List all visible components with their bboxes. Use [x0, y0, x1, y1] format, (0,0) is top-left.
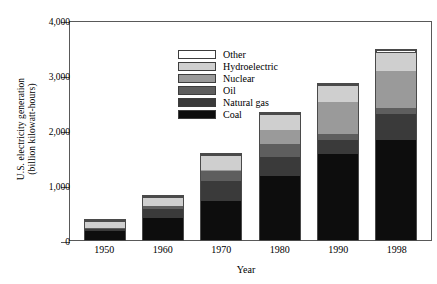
x-axis-tick-label-1970: 1970 — [201, 244, 241, 260]
legend-label-nuclear: Nuclear — [223, 74, 255, 84]
legend-label-oil: Oil — [223, 86, 236, 96]
bar-1980[interactable] — [260, 113, 300, 240]
bar-segment-coal-1960[interactable] — [143, 218, 183, 240]
bar-segment-nuclear-1980[interactable] — [260, 130, 300, 144]
legend-swatch-coal — [178, 110, 216, 119]
legend-item-gas[interactable]: Natural gas — [178, 97, 278, 108]
y-axis-tick-label: 2,000 — [49, 127, 70, 137]
stacked-bar-chart-figure: U.S. electricity generation (billion kil… — [0, 0, 437, 284]
bar-segment-hydro-1990[interactable] — [318, 86, 358, 102]
bar-segment-hydro-1998[interactable] — [376, 53, 416, 71]
legend-item-coal[interactable]: Coal — [178, 109, 278, 120]
legend-item-hydro[interactable]: Hydroelectric — [178, 61, 278, 72]
y-axis-tick-label: 4,000 — [49, 17, 70, 27]
bar-segment-coal-1950[interactable] — [85, 231, 125, 240]
legend-label-gas: Natural gas — [223, 98, 269, 108]
legend-label-coal: Coal — [223, 110, 242, 120]
bar-segment-coal-1990[interactable] — [318, 154, 358, 240]
bar-1990[interactable] — [318, 84, 358, 240]
legend-swatch-other — [178, 50, 216, 59]
legend-label-other: Other — [223, 50, 246, 60]
bar-segment-coal-1998[interactable] — [376, 140, 416, 240]
x-axis-tick-label-1998: 1998 — [377, 244, 417, 260]
y-axis-tick-label: 1,000 — [49, 182, 70, 192]
legend-swatch-hydro — [178, 62, 216, 71]
bar-segment-gas-1970[interactable] — [201, 181, 241, 201]
bar-segment-hydro-1970[interactable] — [201, 156, 241, 170]
legend-item-nuclear[interactable]: Nuclear — [178, 73, 278, 84]
bar-segment-oil-1970[interactable] — [201, 171, 241, 181]
bar-segment-hydro-1960[interactable] — [143, 198, 183, 206]
bar-segment-gas-1960[interactable] — [143, 209, 183, 218]
legend-swatch-oil — [178, 86, 216, 95]
y-axis-title-line-2: (billion kilowatt-hours) — [27, 34, 38, 224]
legend-item-oil[interactable]: Oil — [178, 85, 278, 96]
legend-swatch-gas — [178, 98, 216, 107]
bar-1970[interactable] — [201, 154, 241, 240]
bar-segment-nuclear-1998[interactable] — [376, 71, 416, 108]
x-axis-title: Year — [60, 264, 432, 275]
y-axis-title: U.S. electricity generation (billion kil… — [16, 34, 38, 224]
bar-1960[interactable] — [143, 196, 183, 240]
y-axis-tick-label: 3,000 — [49, 72, 70, 82]
bar-segment-gas-1990[interactable] — [318, 140, 358, 154]
bar-segment-gas-1980[interactable] — [260, 157, 300, 176]
bar-segment-coal-1970[interactable] — [201, 201, 241, 240]
bar-segment-nuclear-1990[interactable] — [318, 102, 358, 134]
y-axis-title-line-1: U.S. electricity generation — [16, 34, 27, 224]
x-axis-tick-label-1950: 1950 — [84, 244, 124, 260]
legend-label-hydro: Hydroelectric — [223, 62, 278, 72]
bar-segment-gas-1998[interactable] — [376, 114, 416, 140]
bar-1998[interactable] — [376, 50, 416, 240]
bar-segment-oil-1980[interactable] — [260, 144, 300, 157]
x-axis-tick-label-1990: 1990 — [318, 244, 358, 260]
x-axis-tick-label-1980: 1980 — [260, 244, 300, 260]
x-axis-tick-label-1960: 1960 — [143, 244, 183, 260]
bar-1950[interactable] — [85, 220, 125, 240]
bar-segment-coal-1980[interactable] — [260, 176, 300, 240]
legend-swatch-nuclear — [178, 74, 216, 83]
x-axis-tick-labels: 195019601970198019901998 — [69, 244, 432, 260]
chart-legend: OtherHydroelectricNuclearOilNatural gasC… — [178, 49, 278, 120]
plot-area: 01,0002,0003,0004,000 OtherHydroelectric… — [69, 21, 432, 241]
legend-item-other[interactable]: Other — [178, 49, 278, 60]
